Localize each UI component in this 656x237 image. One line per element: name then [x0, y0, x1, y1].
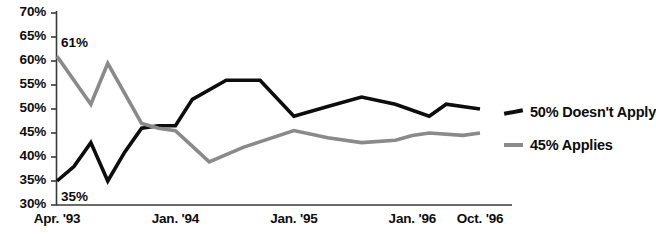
y-axis-tick-label: 55%	[0, 76, 46, 91]
annotation-35pct: 35%	[61, 189, 88, 204]
legend-item-applies: 45% Applies	[504, 137, 613, 153]
y-axis-tick-label: 30%	[0, 196, 46, 211]
x-axis-tick-label: Apr. '93	[34, 211, 81, 226]
annotation-61pct: 61%	[61, 35, 88, 50]
x-axis-tick-label: Jan. '94	[152, 211, 199, 226]
series-line-applies	[57, 56, 480, 162]
y-axis-tick-label: 50%	[0, 100, 46, 115]
legend-label-doesnt-apply: 50% Doesn't Apply	[530, 104, 656, 120]
y-axis-tick-label: 65%	[0, 28, 46, 43]
y-axis-tick-label: 60%	[0, 52, 46, 67]
y-axis-tick-label: 70%	[0, 4, 46, 19]
legend-swatch-doesnt-apply-icon	[504, 108, 523, 116]
legend-item-doesnt-apply: 50% Doesn't Apply	[504, 104, 656, 120]
y-axis-tick-label: 45%	[0, 124, 46, 139]
y-axis-tick-label: 35%	[0, 172, 46, 187]
legend-label-applies: 45% Applies	[530, 137, 613, 153]
x-axis-tick-label: Jan. '96	[389, 211, 436, 226]
series-line-doesn-t-apply	[57, 80, 480, 181]
data-series-layer	[57, 56, 480, 181]
x-axis-tick-label: Jan. '95	[270, 211, 317, 226]
legend-swatch-applies-icon	[504, 143, 523, 147]
x-axis-tick-label: Oct. '96	[457, 211, 504, 226]
y-axis-tick-label: 40%	[0, 148, 46, 163]
